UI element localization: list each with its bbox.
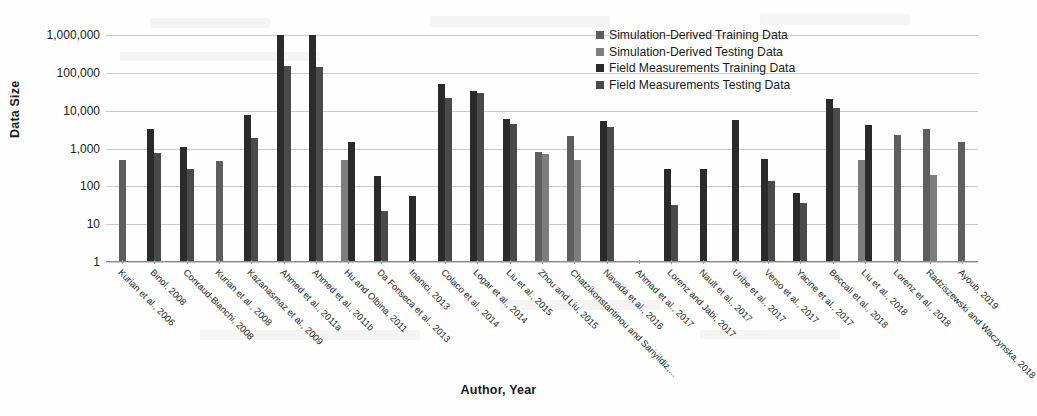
x-axis-tick-label: Ayoub, 2019 xyxy=(956,267,1000,311)
bar xyxy=(244,115,251,262)
bar xyxy=(671,205,678,262)
bar xyxy=(180,147,187,262)
x-axis-tick-mark xyxy=(897,260,898,264)
bar xyxy=(607,127,614,262)
y-axis-tick-label: 10 xyxy=(10,217,100,231)
x-axis-tick-mark xyxy=(187,260,188,264)
legend-label: Simulation-Derived Testing Data xyxy=(609,45,783,59)
y-axis-tick-label: 1 xyxy=(10,255,100,269)
y-axis-tick-label: 1,000,000 xyxy=(10,28,100,42)
x-axis-tick-mark xyxy=(865,260,866,264)
x-axis-tick-mark xyxy=(703,260,704,264)
bar xyxy=(341,160,348,262)
bar-group xyxy=(913,35,945,262)
plot-area xyxy=(106,35,978,262)
bar xyxy=(445,98,452,262)
legend-swatch xyxy=(596,31,604,39)
legend-item: Simulation-Derived Testing Data xyxy=(596,45,795,59)
x-axis-tick-mark xyxy=(833,260,834,264)
bar xyxy=(761,159,768,262)
bar-group xyxy=(429,35,461,262)
bar xyxy=(316,67,323,262)
legend-label: Field Measurements Training Data xyxy=(609,61,795,75)
bar xyxy=(732,120,739,262)
x-axis-tick-mark xyxy=(574,260,575,264)
x-axis-tick-mark xyxy=(348,260,349,264)
bar xyxy=(800,203,807,262)
x-axis-tick-mark xyxy=(800,260,801,264)
bar-group xyxy=(946,35,978,262)
bar-group xyxy=(461,35,493,262)
legend-swatch xyxy=(596,81,604,89)
bar xyxy=(119,160,126,262)
bar xyxy=(277,35,284,262)
bar xyxy=(409,196,416,262)
y-axis-tick-label: 100,000 xyxy=(10,66,100,80)
bar-group xyxy=(332,35,364,262)
bar-group xyxy=(397,35,429,262)
bar xyxy=(664,169,671,262)
x-axis-tick-mark xyxy=(413,260,414,264)
bar xyxy=(374,176,381,262)
x-axis-tick-mark xyxy=(219,260,220,264)
legend-swatch xyxy=(596,64,604,72)
legend-item: Field Measurements Testing Data xyxy=(596,78,795,92)
bar xyxy=(700,169,707,262)
bar xyxy=(438,84,445,262)
x-axis-tick-mark xyxy=(542,260,543,264)
legend-item: Simulation-Derived Training Data xyxy=(596,28,795,42)
bar xyxy=(894,135,901,262)
x-axis-tick-mark xyxy=(316,260,317,264)
bar-group xyxy=(526,35,558,262)
x-axis-tick-mark xyxy=(122,260,123,264)
legend-label: Simulation-Derived Training Data xyxy=(609,28,788,42)
bar-group xyxy=(849,35,881,262)
x-axis-tick-mark xyxy=(607,260,608,264)
bar xyxy=(600,121,607,263)
bar xyxy=(768,181,775,262)
bar xyxy=(284,66,291,262)
bar-group xyxy=(171,35,203,262)
bar xyxy=(251,138,258,262)
legend-item: Field Measurements Training Data xyxy=(596,61,795,75)
x-axis-tick-mark xyxy=(768,260,769,264)
x-axis-tick-mark xyxy=(381,260,382,264)
bar-group xyxy=(267,35,299,262)
bar xyxy=(958,142,965,262)
bar xyxy=(309,35,316,262)
bar xyxy=(923,129,930,262)
x-axis-tick-mark xyxy=(736,260,737,264)
y-axis-ticks: 1101001,00010,000100,0001,000,000 xyxy=(0,35,100,262)
bar xyxy=(858,160,865,262)
bar xyxy=(477,93,484,262)
bar-group xyxy=(881,35,913,262)
x-axis-tick-mark xyxy=(671,260,672,264)
bar xyxy=(381,211,388,262)
bar xyxy=(567,136,574,262)
bar xyxy=(510,124,517,262)
bar xyxy=(470,91,477,262)
x-axis-tick-mark xyxy=(284,260,285,264)
y-axis-tick-label: 1,000 xyxy=(10,142,100,156)
x-axis-tick-mark xyxy=(962,260,963,264)
legend-label: Field Measurements Testing Data xyxy=(609,78,790,92)
x-axis-title: Author, Year xyxy=(0,383,997,397)
bar xyxy=(930,175,937,262)
chart-legend: Simulation-Derived Training DataSimulati… xyxy=(596,28,795,92)
bar-group xyxy=(106,35,138,262)
bar-group xyxy=(203,35,235,262)
bar-group xyxy=(364,35,396,262)
x-axis-tick-mark xyxy=(251,260,252,264)
bar xyxy=(503,119,510,262)
bar xyxy=(348,142,355,262)
bar xyxy=(833,108,840,262)
bar-group xyxy=(235,35,267,262)
legend-swatch xyxy=(596,48,604,56)
bar xyxy=(542,154,549,262)
bar-group xyxy=(558,35,590,262)
bar xyxy=(865,125,872,262)
bar-group xyxy=(138,35,170,262)
bar xyxy=(154,153,161,262)
x-axis-tick-mark xyxy=(154,260,155,264)
